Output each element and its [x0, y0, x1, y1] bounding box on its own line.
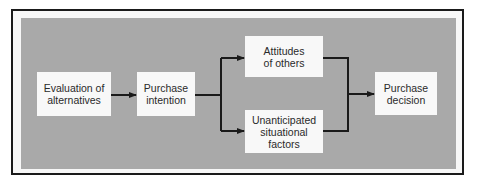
line-merge: [323, 58, 348, 131]
node-attitudes-of-others: Attitudes of others: [245, 36, 323, 77]
node-purchase-intention: Purchase intention: [137, 72, 195, 116]
node-purchase-decision: Purchase decision: [375, 72, 437, 115]
node-evaluation-of-alternatives: Evaluation of alternatives: [37, 72, 111, 116]
node-unanticipated-situational-factors: Unanticipated situational factors: [245, 110, 323, 153]
